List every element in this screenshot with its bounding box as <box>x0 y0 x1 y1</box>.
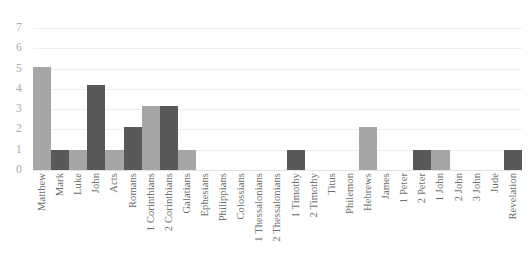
x-axis-slot: Revelation <box>504 171 522 271</box>
bar-slot <box>468 28 486 170</box>
x-axis-slot: John <box>87 171 105 271</box>
x-axis-tick-label: James <box>381 173 392 199</box>
x-axis-tick-label: Philippians <box>218 173 229 221</box>
bar-slot <box>196 28 214 170</box>
x-axis-slot: Jude <box>486 171 504 271</box>
y-axis-tick-label: 6 <box>16 43 22 55</box>
x-axis-tick-label: Mark <box>55 173 66 196</box>
bar-slot <box>124 28 142 170</box>
x-axis-tick-label: John <box>91 173 102 193</box>
x-axis-tick-label: 2 John <box>453 173 464 201</box>
bar-slot <box>33 28 51 170</box>
bar[interactable] <box>69 150 87 170</box>
bar-slot <box>287 28 305 170</box>
x-axis-slot: Acts <box>105 171 123 271</box>
x-axis-slot: Ephesians <box>196 171 214 271</box>
x-axis-tick-label: 2 Thessalonians <box>272 173 283 242</box>
bar[interactable] <box>87 85 105 170</box>
x-axis-slot: Philemon <box>341 171 359 271</box>
x-axis-slot: 1 Timothy <box>287 171 305 271</box>
bar[interactable] <box>51 150 69 170</box>
x-axis-tick-label: Acts <box>109 173 120 193</box>
x-axis-slot: 1 Thessalonians <box>250 171 268 271</box>
x-axis-slot: 2 Peter <box>413 171 431 271</box>
x-axis-slot: Hebrews <box>359 171 377 271</box>
bar-slot <box>268 28 286 170</box>
plot-area <box>33 28 522 170</box>
x-axis-tick-label: 2 Timothy <box>308 173 319 217</box>
x-axis-slot: Mark <box>51 171 69 271</box>
x-axis-slot: 1 John <box>431 171 449 271</box>
bar[interactable] <box>504 150 522 170</box>
y-axis-tick-label: 7 <box>16 22 22 34</box>
bar-slot <box>69 28 87 170</box>
x-axis-tick-label: 3 John <box>471 173 482 201</box>
bar-slot <box>142 28 160 170</box>
bar[interactable] <box>105 150 123 170</box>
x-axis-slot: 1 Corinthians <box>142 171 160 271</box>
x-axis-tick-label: Philemon <box>345 173 356 214</box>
x-axis-slot: Galatians <box>178 171 196 271</box>
x-axis-tick-label: Jude <box>490 173 501 193</box>
bar-slot <box>232 28 250 170</box>
x-axis-tick-label: 1 Corinthians <box>145 173 156 231</box>
bar-slot <box>305 28 323 170</box>
x-axis-tick-label: Ephesians <box>200 173 211 216</box>
bar[interactable] <box>413 150 431 170</box>
x-axis-slot: Colossians <box>232 171 250 271</box>
x-axis-slot: Matthew <box>33 171 51 271</box>
y-axis: 76543210 <box>0 28 28 170</box>
y-axis-tick-label: 2 <box>16 124 22 136</box>
bar-chart: 76543210 MatthewMarkLukeJohnActsRomans1 … <box>0 0 530 272</box>
bar-slot <box>214 28 232 170</box>
x-axis-tick-label: 1 John <box>435 173 446 201</box>
x-axis: MatthewMarkLukeJohnActsRomans1 Corinthia… <box>33 171 522 271</box>
x-axis-tick-label: 1 Thessalonians <box>254 173 265 242</box>
bar-slot <box>431 28 449 170</box>
bar-series <box>33 28 522 170</box>
bar-slot <box>450 28 468 170</box>
bar[interactable] <box>142 106 160 170</box>
x-axis-slot: 2 Thessalonians <box>268 171 286 271</box>
x-axis-tick-label: Luke <box>73 173 84 195</box>
bar-slot <box>105 28 123 170</box>
bar[interactable] <box>33 67 51 170</box>
y-axis-tick-label: 1 <box>16 144 22 156</box>
bar-slot <box>504 28 522 170</box>
x-axis-tick-label: 1 Timothy <box>290 173 301 217</box>
x-axis-tick-label: Galatians <box>182 173 193 214</box>
x-axis-slot: James <box>377 171 395 271</box>
bar[interactable] <box>178 150 196 170</box>
x-axis-slot: 1 Peter <box>395 171 413 271</box>
x-axis-slot: 2 John <box>450 171 468 271</box>
bar-slot <box>87 28 105 170</box>
x-axis-tick-label: Matthew <box>37 173 48 211</box>
bar[interactable] <box>124 127 142 170</box>
x-axis-tick-label: Romans <box>127 173 138 208</box>
bar-slot <box>250 28 268 170</box>
y-axis-tick-label: 3 <box>16 103 22 115</box>
x-axis-tick-label: Revelation <box>508 173 519 220</box>
bar[interactable] <box>287 150 305 170</box>
y-axis-tick-label: 4 <box>16 83 22 95</box>
x-axis-slot: 2 Corinthians <box>160 171 178 271</box>
bar-slot <box>359 28 377 170</box>
bar-slot <box>51 28 69 170</box>
x-axis-slot: 3 John <box>468 171 486 271</box>
y-axis-tick-label: 5 <box>16 63 22 75</box>
bar-slot <box>178 28 196 170</box>
bar-slot <box>395 28 413 170</box>
x-axis-slot: Titus <box>323 171 341 271</box>
bar[interactable] <box>359 127 377 170</box>
bar[interactable] <box>431 150 449 170</box>
y-axis-tick-label: 0 <box>16 164 22 176</box>
bar-slot <box>341 28 359 170</box>
x-axis-tick-label: Titus <box>327 173 338 195</box>
x-axis-tick-label: 2 Corinthians <box>164 173 175 231</box>
bar-slot <box>377 28 395 170</box>
bar[interactable] <box>160 106 178 170</box>
x-axis-tick-label: Hebrews <box>363 173 374 211</box>
bar-slot <box>413 28 431 170</box>
x-axis-slot: 2 Timothy <box>305 171 323 271</box>
x-axis-tick-label: 2 Peter <box>417 173 428 203</box>
